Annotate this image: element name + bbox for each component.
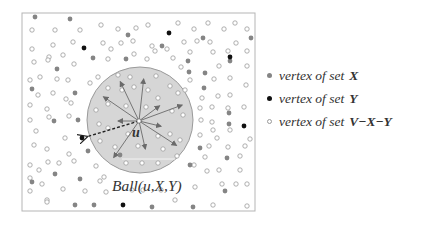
vertex-x bbox=[126, 33, 131, 38]
vertex-other bbox=[51, 91, 55, 95]
vertex-other bbox=[38, 75, 42, 79]
vertex-x bbox=[186, 59, 191, 64]
vertex-other bbox=[96, 75, 100, 79]
vertex-x bbox=[68, 17, 73, 22]
vertex-other bbox=[146, 23, 150, 27]
vertex-x bbox=[203, 71, 208, 76]
vertex-other bbox=[181, 113, 185, 117]
vertex-other bbox=[168, 132, 172, 136]
vertex-other bbox=[242, 105, 246, 109]
vertex-other bbox=[156, 96, 160, 100]
vertex-x bbox=[52, 119, 57, 124]
vertex-other bbox=[203, 155, 207, 159]
vertex-other bbox=[175, 154, 179, 158]
vertex-other bbox=[94, 164, 98, 168]
vertex-other bbox=[207, 144, 211, 148]
vertex-x bbox=[55, 67, 60, 72]
vertex-other bbox=[188, 50, 192, 54]
vertex-x bbox=[198, 146, 203, 151]
vertex-other bbox=[101, 41, 105, 45]
vertex-other bbox=[102, 175, 106, 179]
vertex-other bbox=[88, 81, 92, 85]
vertex-other bbox=[165, 47, 169, 51]
vertex-other bbox=[83, 189, 87, 193]
vertex-other bbox=[109, 47, 113, 51]
vertex-other bbox=[116, 73, 120, 77]
vertex-other bbox=[154, 74, 158, 78]
vertex-other bbox=[198, 106, 202, 110]
vertex-y bbox=[82, 46, 87, 51]
vertex-other bbox=[132, 52, 136, 56]
vertex-y bbox=[242, 124, 247, 129]
vertex-x bbox=[191, 205, 196, 210]
vertex-other bbox=[210, 105, 214, 109]
vertex-other bbox=[238, 168, 242, 172]
vertex-other bbox=[78, 28, 82, 32]
vertex-other bbox=[206, 21, 210, 25]
vertex-other bbox=[128, 75, 132, 79]
vertex-other bbox=[36, 93, 40, 97]
vertex-y bbox=[80, 136, 85, 141]
vertex-other bbox=[182, 40, 186, 44]
vertex-other bbox=[34, 129, 38, 133]
vertex-other bbox=[28, 163, 32, 167]
vertex-other bbox=[179, 65, 183, 69]
vertex-other bbox=[217, 168, 221, 172]
vertex-other bbox=[37, 168, 41, 172]
vertex-y bbox=[167, 31, 172, 36]
vertex-other bbox=[248, 137, 252, 141]
vertex-x bbox=[124, 57, 129, 62]
vertex-other bbox=[146, 88, 150, 92]
vertex-x bbox=[201, 36, 206, 41]
vertex-other bbox=[245, 182, 249, 186]
vertex-other bbox=[40, 182, 44, 186]
vertex-other bbox=[106, 102, 110, 106]
legend-set-name: V−X−Y bbox=[349, 114, 392, 129]
vertex-other bbox=[199, 118, 203, 122]
vertex-x bbox=[223, 189, 228, 194]
vertex-x bbox=[225, 156, 230, 161]
vertex-other bbox=[46, 160, 50, 164]
vertex-x bbox=[73, 91, 78, 96]
vertex-other bbox=[183, 88, 187, 92]
vertex-other bbox=[30, 47, 34, 51]
vertex-other bbox=[106, 57, 110, 61]
vertex-other bbox=[212, 77, 216, 81]
vertex-other bbox=[28, 189, 32, 193]
vertex-x bbox=[118, 153, 123, 158]
vertex-x bbox=[227, 122, 232, 127]
vertex-other bbox=[198, 133, 202, 137]
vertex-x bbox=[73, 203, 78, 208]
vertex-other bbox=[200, 96, 204, 100]
vertex-other bbox=[67, 152, 71, 156]
vertex-other bbox=[234, 182, 238, 186]
vertex-other bbox=[47, 115, 51, 119]
black-dot-icon bbox=[267, 96, 272, 101]
legend-set-name: Y bbox=[349, 91, 357, 106]
vertex-other bbox=[195, 39, 199, 43]
vertex-other bbox=[192, 27, 196, 31]
vertex-other bbox=[211, 203, 215, 207]
vertex-other bbox=[106, 86, 110, 90]
vertex-other bbox=[144, 105, 148, 109]
vertex-x bbox=[78, 177, 83, 182]
vertex-other bbox=[156, 161, 160, 165]
vertex-other bbox=[226, 106, 230, 110]
vertex-x bbox=[202, 86, 207, 91]
vertex-x bbox=[86, 149, 91, 154]
vertex-other bbox=[243, 144, 247, 148]
vertex-other bbox=[176, 91, 180, 95]
vertex-other bbox=[71, 40, 75, 44]
center-vertex-u bbox=[137, 119, 141, 123]
vertex-x bbox=[76, 118, 81, 123]
vertex-other bbox=[64, 97, 68, 101]
vertex-other bbox=[210, 120, 214, 124]
vertex-other bbox=[30, 28, 34, 32]
ball-label: Ball(u,X,Y) bbox=[112, 177, 182, 195]
vertex-other bbox=[136, 144, 140, 148]
vertex-x bbox=[30, 87, 35, 92]
vertex-other bbox=[113, 145, 117, 149]
vertex-x bbox=[91, 56, 96, 61]
vertex-other bbox=[63, 136, 67, 140]
vertex-x bbox=[160, 44, 165, 49]
